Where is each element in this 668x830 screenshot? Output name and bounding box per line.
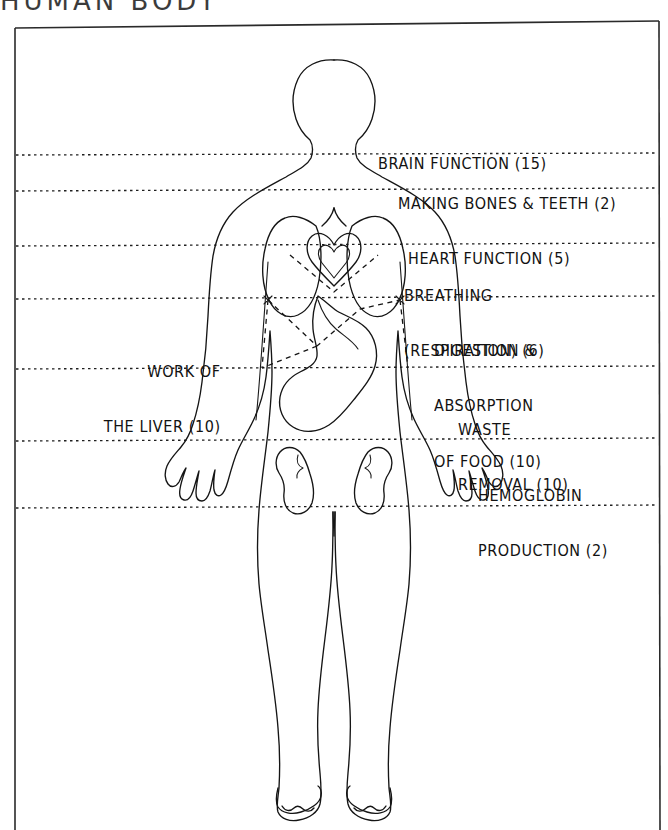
lung-right <box>347 216 405 316</box>
divider-line-1 <box>16 153 658 155</box>
heart <box>307 233 361 286</box>
kidney-right <box>355 448 392 514</box>
label-hemoglobin-production: HEMOGLOBIN PRODUCTION (2) <box>478 450 608 598</box>
kidney-left <box>276 448 313 514</box>
leader-digestion <box>268 300 400 346</box>
lung-left <box>263 216 321 316</box>
label-work-of-the-liver: WORK OF THE LIVER (10) <box>46 326 221 474</box>
leader-lines <box>262 255 408 368</box>
lungs <box>263 208 406 317</box>
leader-liver-diag <box>262 346 317 368</box>
anatomy-diagram: HUMAN BODY .ink { fill:none; stroke:#151… <box>0 0 668 830</box>
kidneys <box>276 448 392 514</box>
